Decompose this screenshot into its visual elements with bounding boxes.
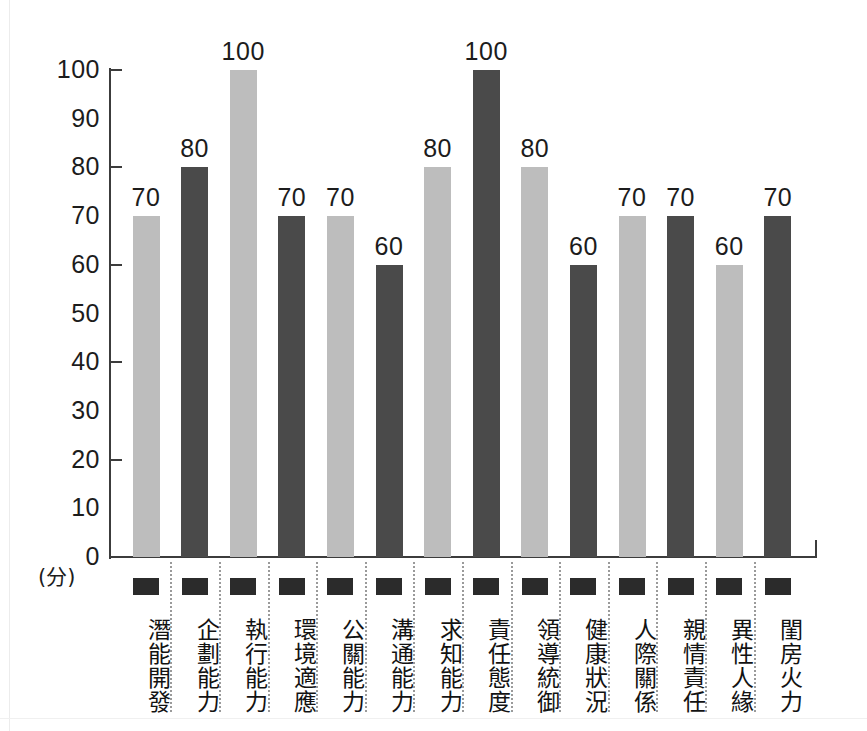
bar-7 xyxy=(473,70,500,557)
category-column-8: 領導統御 xyxy=(510,558,560,731)
category-column-12: 異性人緣 xyxy=(704,558,754,731)
category-separator-1 xyxy=(170,562,172,712)
category-marker-icon-10 xyxy=(619,578,645,595)
category-column-9: 健康狀況 xyxy=(558,558,608,731)
category-separator-12 xyxy=(705,562,707,712)
category-separator-6 xyxy=(413,562,415,712)
category-marker-icon-6 xyxy=(425,578,451,595)
bar-value-label-0: 70 xyxy=(116,185,176,210)
category-separator-5 xyxy=(365,562,367,712)
bar-3 xyxy=(278,216,305,557)
y-axis-label-90: 90 xyxy=(40,106,100,131)
y-axis-label-20: 20 xyxy=(40,447,100,472)
y-axis-label-50: 50 xyxy=(40,301,100,326)
category-separator-7 xyxy=(462,562,464,712)
y-axis-label-60: 60 xyxy=(40,252,100,277)
bar-value-label-1: 80 xyxy=(165,136,225,161)
category-column-0: 潛能開發 xyxy=(121,558,171,731)
category-column-6: 求知能力 xyxy=(413,558,463,731)
plot-area: 708010070706080100806070706070 xyxy=(110,70,816,557)
bar-value-label-11: 70 xyxy=(651,185,711,210)
category-marker-icon-4 xyxy=(327,578,353,595)
category-marker-icon-11 xyxy=(668,578,694,595)
category-separator-9 xyxy=(559,562,561,712)
bar-value-label-12: 60 xyxy=(699,234,759,259)
category-label-4: 公關能力 xyxy=(315,603,365,728)
category-separator-2 xyxy=(219,562,221,712)
category-separator-3 xyxy=(268,562,270,712)
bar-12 xyxy=(716,265,743,557)
bar-value-label-2: 100 xyxy=(213,39,273,64)
category-label-11: 親情責任 xyxy=(656,603,706,728)
bar-13 xyxy=(764,216,791,557)
category-marker-icon-7 xyxy=(473,578,499,595)
category-marker-icon-2 xyxy=(230,578,256,595)
y-axis-label-100: 100 xyxy=(40,57,100,82)
category-label-9: 健康狀況 xyxy=(558,603,608,728)
category-column-5: 溝通能力 xyxy=(364,558,414,731)
category-label-8: 領導統御 xyxy=(510,603,560,728)
bar-value-label-7: 100 xyxy=(456,39,516,64)
category-axis: 潛能開發企劃能力執行能力環境適應公關能力溝通能力求知能力責任態度領導統御健康狀況… xyxy=(0,558,867,731)
category-marker-icon-12 xyxy=(716,578,742,595)
category-marker-icon-13 xyxy=(765,578,791,595)
category-label-0: 潛能開發 xyxy=(121,603,171,728)
bar-value-label-8: 80 xyxy=(505,136,565,161)
category-label-7: 責任態度 xyxy=(461,603,511,728)
category-column-10: 人際關係 xyxy=(607,558,657,731)
category-column-3: 環境適應 xyxy=(267,558,317,731)
category-separator-8 xyxy=(511,562,513,712)
bar-6 xyxy=(424,167,451,557)
category-column-2: 執行能力 xyxy=(218,558,268,731)
category-column-1: 企劃能力 xyxy=(170,558,220,731)
category-label-2: 執行能力 xyxy=(218,603,268,728)
y-axis-label-30: 30 xyxy=(40,398,100,423)
category-column-7: 責任態度 xyxy=(461,558,511,731)
category-separator-11 xyxy=(656,562,658,712)
category-marker-icon-1 xyxy=(182,578,208,595)
bar-11 xyxy=(667,216,694,557)
bar-value-label-9: 60 xyxy=(553,234,613,259)
bar-8 xyxy=(521,167,548,557)
category-separator-10 xyxy=(608,562,610,712)
bar-0 xyxy=(133,216,160,557)
bar-10 xyxy=(619,216,646,557)
category-marker-icon-0 xyxy=(133,578,159,595)
category-label-13: 閨房火力 xyxy=(753,603,803,728)
bar-4 xyxy=(327,216,354,557)
category-column-4: 公關能力 xyxy=(315,558,365,731)
bar-value-label-6: 80 xyxy=(408,136,468,161)
category-column-11: 親情責任 xyxy=(656,558,706,731)
category-label-6: 求知能力 xyxy=(413,603,463,728)
category-marker-icon-8 xyxy=(522,578,548,595)
bar-2 xyxy=(230,70,257,557)
bar-9 xyxy=(570,265,597,557)
bar-value-label-4: 70 xyxy=(310,185,370,210)
bar-value-label-5: 60 xyxy=(359,234,419,259)
category-label-3: 環境適應 xyxy=(267,603,317,728)
category-separator-4 xyxy=(316,562,318,712)
bar-5 xyxy=(376,265,403,557)
category-separator-13 xyxy=(754,562,756,712)
category-column-13: 閨房火力 xyxy=(753,558,803,731)
category-marker-icon-5 xyxy=(376,578,402,595)
category-label-5: 溝通能力 xyxy=(364,603,414,728)
bar-value-label-13: 70 xyxy=(748,185,808,210)
y-axis-label-10: 10 xyxy=(40,495,100,520)
category-label-12: 異性人緣 xyxy=(704,603,754,728)
bar-1 xyxy=(181,167,208,557)
y-axis-label-70: 70 xyxy=(40,203,100,228)
category-marker-icon-9 xyxy=(570,578,596,595)
category-marker-icon-3 xyxy=(279,578,305,595)
y-axis-label-80: 80 xyxy=(40,154,100,179)
y-axis-label-40: 40 xyxy=(40,349,100,374)
category-label-10: 人際關係 xyxy=(607,603,657,728)
category-label-1: 企劃能力 xyxy=(170,603,220,728)
bar-chart: 1009080706050403020100 (分) 7080100707060… xyxy=(0,0,867,731)
